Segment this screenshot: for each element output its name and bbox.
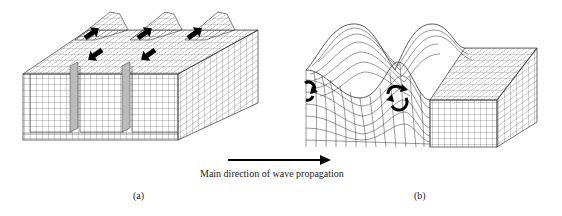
panel-b-label: (b) [414, 190, 426, 201]
panel-a-label: (a) [133, 190, 144, 201]
panel-a-block [23, 12, 258, 140]
wave-diagram [0, 0, 562, 216]
propagation-label: Main direction of wave propagation [200, 168, 344, 179]
panel-b-block [306, 24, 537, 147]
propagation-arrow [228, 155, 331, 165]
